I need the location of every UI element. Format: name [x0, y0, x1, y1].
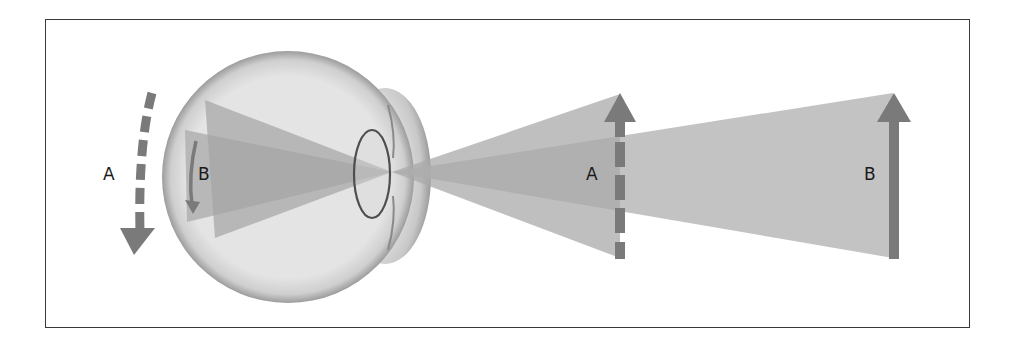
label-retina-a: A [103, 166, 115, 183]
retina-arrow-a-icon [120, 93, 155, 255]
label-object-a: A [586, 166, 598, 183]
label-object-b: B [864, 166, 876, 183]
lens [354, 130, 390, 218]
label-retina-b: B [198, 166, 210, 183]
